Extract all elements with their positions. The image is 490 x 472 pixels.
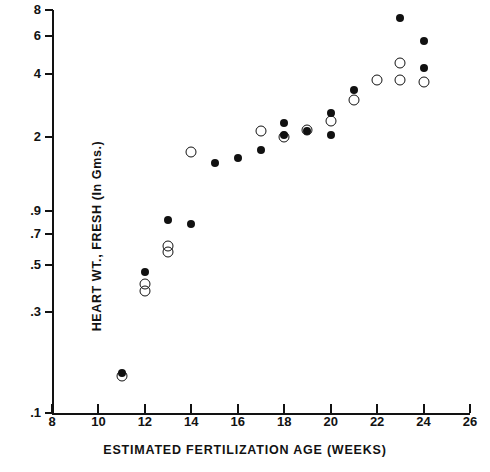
y-tick: .5 [45, 264, 53, 266]
data-point-filled [141, 268, 149, 276]
data-point-open [256, 125, 267, 136]
data-point-filled [327, 131, 335, 139]
data-point-filled [280, 119, 288, 127]
x-tick: 24 [423, 404, 425, 413]
data-point-open [302, 124, 313, 135]
data-point-filled [396, 14, 404, 22]
data-point-open [348, 95, 359, 106]
y-tick-label: 4 [34, 65, 41, 80]
data-point-filled [164, 216, 172, 224]
data-point-open [395, 75, 406, 86]
data-point-filled [350, 86, 358, 94]
x-tick-label: 22 [370, 414, 384, 429]
data-point-open [116, 370, 127, 381]
data-point-filled [211, 159, 219, 167]
data-point-open [418, 77, 429, 88]
y-tick-label: .7 [30, 226, 41, 241]
y-tick: .3 [45, 311, 53, 313]
x-tick: 20 [330, 404, 332, 413]
data-point-open [372, 74, 383, 85]
x-tick-label: 14 [184, 414, 198, 429]
x-tick: 14 [190, 404, 192, 413]
data-point-filled [234, 154, 242, 162]
y-tick-label: .5 [30, 256, 41, 271]
x-tick: 10 [97, 404, 99, 413]
y-tick: 4 [45, 73, 53, 75]
y-tick-label: .9 [30, 202, 41, 217]
y-tick-label: 6 [34, 28, 41, 43]
y-tick: 2 [45, 136, 53, 138]
x-tick-label: 20 [323, 414, 337, 429]
data-point-filled [187, 220, 195, 228]
x-tick: 22 [376, 404, 378, 413]
y-tick: 6 [45, 35, 53, 37]
x-tick-label: 16 [231, 414, 245, 429]
y-tick-label: 8 [34, 2, 41, 17]
y-tick: .7 [45, 233, 53, 235]
y-axis-title: HEART WT., FRESH (In Gms.) [90, 141, 104, 332]
y-tick-label: .1 [30, 405, 41, 420]
plot-area: .1.3.5.7.92468 8101214161820222426 [52, 10, 470, 415]
y-axis-line [52, 10, 54, 415]
y-tick-label: 2 [34, 129, 41, 144]
data-point-open [395, 57, 406, 68]
data-point-filled [420, 37, 428, 45]
y-tick-label: .3 [30, 303, 41, 318]
data-point-open [163, 247, 174, 258]
y-tick: 8 [45, 9, 53, 11]
x-tick-label: 24 [416, 414, 430, 429]
data-point-filled [420, 64, 428, 72]
x-tick-label: 12 [138, 414, 152, 429]
data-point-open [139, 285, 150, 296]
x-tick: 8 [51, 404, 53, 413]
data-point-open [279, 131, 290, 142]
data-point-filled [257, 146, 265, 154]
x-axis-title: ESTIMATED FERTILIZATION AGE (WEEKS) [0, 443, 490, 457]
data-point-open [325, 115, 336, 126]
y-tick: .9 [45, 210, 53, 212]
x-tick: 26 [469, 404, 471, 413]
x-tick: 12 [144, 404, 146, 413]
x-tick: 16 [237, 404, 239, 413]
x-tick-label: 18 [277, 414, 291, 429]
x-axis-line [52, 413, 470, 415]
data-point-open [186, 147, 197, 158]
x-tick-label: 10 [91, 414, 105, 429]
x-tick-label: 8 [48, 414, 55, 429]
chart-figure: .1.3.5.7.92468 8101214161820222426 HEART… [0, 0, 490, 472]
x-tick-label: 26 [463, 414, 477, 429]
x-tick: 18 [283, 404, 285, 413]
